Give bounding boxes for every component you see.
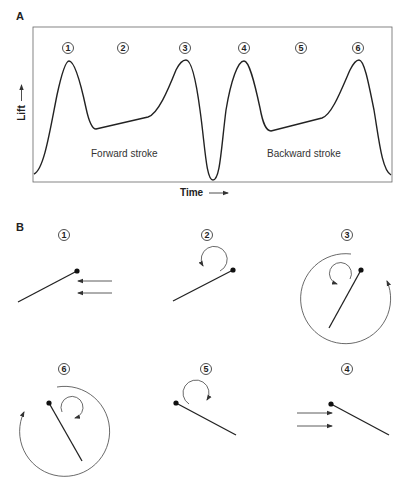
svg-text:4: 4 [344,364,349,374]
svg-text:6: 6 [355,43,360,53]
forward-stroke-label: Forward stroke [91,148,158,159]
y-axis-label: Lift [16,105,27,121]
vortex-arrow-icon [201,246,227,271]
leading-edge-dot [230,267,235,272]
wing-section [173,270,233,301]
wing-section [329,270,361,328]
svg-text:1: 1 [65,43,70,53]
backward-stroke-label: Backward stroke [267,148,341,159]
vortex-arrow-icon [329,263,351,284]
wing-stage-1: 1 [18,230,112,303]
phase-marker-2: 2 [118,43,129,54]
panel-a-label: A [16,10,24,22]
svg-text:3: 3 [182,43,187,53]
wing-stage-2: 2 [173,230,236,302]
leading-edge-dot [328,401,333,406]
svg-text:4: 4 [241,43,246,53]
svg-text:3: 3 [344,230,349,240]
svg-text:5: 5 [203,364,208,374]
svg-text:6: 6 [61,364,66,374]
phase-marker-6: 6 [353,43,364,54]
wing-stage-6: 6 [20,364,110,477]
wing-stage-5: 5 [173,364,236,436]
x-axis-label: Time [180,187,204,198]
wing-stage-4: 4 [297,364,389,436]
lift-curve [34,60,391,180]
svg-text:2: 2 [204,230,209,240]
phase-marker-3: 3 [180,43,191,54]
svg-text:5: 5 [298,43,303,53]
wing-section [18,271,77,302]
phase-marker-5: 5 [296,43,307,54]
leading-edge-dot [173,400,178,405]
panel-b-label: B [16,221,24,233]
wing-section [176,403,236,435]
phase-marker-4: 4 [239,43,250,54]
leading-edge-dot [46,400,51,405]
wing-section [331,404,389,435]
vortex-arrow-icon [61,396,83,418]
wing-stage-3: 3 [301,230,391,344]
vortex-arrow-icon [183,380,209,404]
wing-section [49,403,82,461]
phase-marker-1: 1 [63,43,74,54]
svg-text:1: 1 [61,230,66,240]
leading-edge-dot [74,268,79,273]
leading-edge-dot [358,267,363,272]
figure: A Lift Time 1 2 3 4 5 6 Forward stroke B… [0,0,408,489]
y-axis-label-group: Lift [16,85,27,121]
svg-text:2: 2 [120,43,125,53]
